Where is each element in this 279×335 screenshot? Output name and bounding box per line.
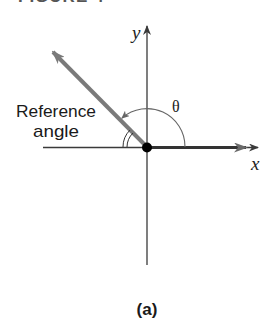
theta-label: θ	[172, 98, 180, 115]
figure-caption: (a)	[0, 300, 279, 320]
reference-label-line1: Reference	[16, 102, 96, 121]
reference-angle-diagram: y x θ Reference angle	[0, 0, 279, 335]
reference-label-line2: angle	[33, 122, 79, 141]
origin-dot	[142, 143, 152, 153]
y-axis-label: y	[130, 22, 141, 43]
x-axis-label: x	[250, 153, 260, 174]
